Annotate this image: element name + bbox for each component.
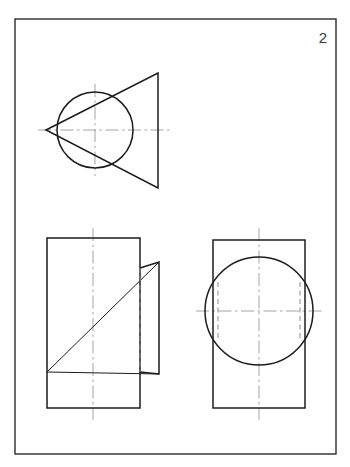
bottom-left-view-flap [140, 262, 159, 374]
bottom-right-view-group [196, 228, 322, 420]
technical-drawing-canvas: 2 [0, 0, 350, 467]
top-view-triangle [46, 73, 158, 188]
bottom-left-view-diagonal-line [47, 262, 159, 372]
drawing-sheet: 2 [0, 0, 350, 467]
sheet-border-frame [15, 19, 336, 454]
bottom-left-view-rectangle [47, 238, 140, 408]
bottom-left-view-group [47, 228, 159, 420]
sheet-number-label: 2 [319, 29, 327, 46]
top-view-group [38, 73, 170, 188]
